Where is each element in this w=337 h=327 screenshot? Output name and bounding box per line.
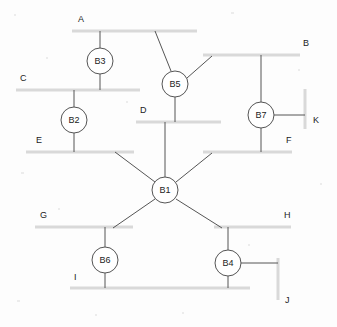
node-label-b5: B5 [169, 79, 180, 89]
background-speck [14, 14, 16, 16]
background-speck [182, 312, 184, 314]
branch-line-e-b1[interactable] [115, 152, 155, 182]
background-speck [17, 300, 20, 302]
node-label-b1: B1 [159, 185, 170, 195]
background-speck [126, 101, 128, 103]
bus-label-g: G [40, 210, 47, 220]
node-b5[interactable]: B5 [162, 71, 188, 97]
background-speck [21, 172, 24, 174]
node-label-b7: B7 [255, 110, 266, 120]
background-speck [46, 57, 48, 59]
background-specks [14, 12, 322, 316]
bus-label-j: J [285, 295, 290, 305]
bus-label-b: B [303, 38, 309, 48]
topology-diagram: B1B2B3B4B5B6B7 ABCDEFGHIJK [0, 0, 337, 327]
node-label-b2: B2 [68, 115, 79, 125]
bus-label-k: K [313, 115, 319, 125]
bus-bars-group [16, 31, 305, 300]
branch-line-b1-g[interactable] [113, 199, 155, 228]
node-b1[interactable]: B1 [152, 177, 178, 203]
node-label-b3: B3 [94, 56, 105, 66]
bus-label-c: C [20, 73, 27, 83]
node-label-b4: B4 [222, 258, 233, 268]
background-speck [298, 69, 300, 71]
bus-label-a: A [78, 14, 84, 24]
branch-line-b5-b[interactable] [187, 56, 212, 78]
background-speck [248, 244, 250, 246]
branch-line-a-b5[interactable] [155, 31, 171, 71]
bus-label-i: I [74, 272, 77, 282]
bus-label-f: F [286, 135, 292, 145]
background-speck [231, 12, 234, 14]
branch-line-b1-h[interactable] [176, 199, 222, 228]
bus-label-d: D [140, 105, 147, 115]
bus-labels-group: ABCDEFGHIJK [20, 14, 319, 305]
nodes-group: B1B2B3B4B5B6B7 [61, 48, 274, 276]
bus-label-h: H [284, 210, 291, 220]
node-b7[interactable]: B7 [248, 102, 274, 128]
node-b6[interactable]: B6 [92, 247, 118, 273]
diagram-canvas: B1B2B3B4B5B6B7 ABCDEFGHIJK [0, 0, 337, 327]
node-b4[interactable]: B4 [215, 250, 241, 276]
background-speck [58, 208, 60, 210]
node-b2[interactable]: B2 [61, 107, 87, 133]
node-label-b6: B6 [99, 255, 110, 265]
background-speck [320, 183, 322, 185]
branch-line-f-b1[interactable] [176, 153, 212, 182]
node-b3[interactable]: B3 [87, 48, 113, 74]
bus-label-e: E [36, 135, 42, 145]
background-speck [95, 314, 97, 316]
